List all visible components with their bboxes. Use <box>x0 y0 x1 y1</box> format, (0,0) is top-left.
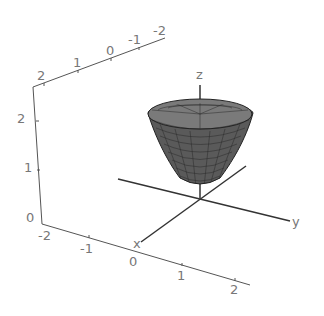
svg-text:0: 0 <box>129 254 137 269</box>
x-axis-label: x <box>133 236 141 251</box>
svg-text:2: 2 <box>230 282 238 297</box>
svg-text:1: 1 <box>177 268 185 283</box>
svg-text:2: 2 <box>37 68 45 83</box>
cone-plot: 2 1 0 -1 -2 0 1 2 -2 -1 0 1 2 <box>0 0 324 316</box>
z-axis-label: z <box>196 67 203 82</box>
svg-text:-1: -1 <box>128 32 141 47</box>
svg-text:1: 1 <box>24 160 32 175</box>
cone-surface <box>148 99 253 187</box>
svg-text:1: 1 <box>73 55 81 70</box>
svg-text:2: 2 <box>17 111 25 126</box>
svg-text:0: 0 <box>106 43 114 58</box>
svg-text:-2: -2 <box>153 23 166 38</box>
svg-text:-2: -2 <box>38 228 51 243</box>
svg-text:0: 0 <box>26 210 34 225</box>
y-axis-label: y <box>292 214 300 229</box>
svg-text:-1: -1 <box>80 241 93 256</box>
